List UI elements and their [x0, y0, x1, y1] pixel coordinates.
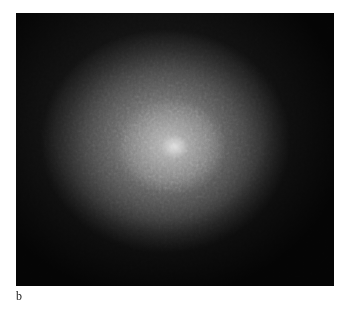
edge-vignette — [16, 13, 334, 286]
panel-label: b — [16, 290, 22, 302]
figure-image — [16, 13, 334, 286]
